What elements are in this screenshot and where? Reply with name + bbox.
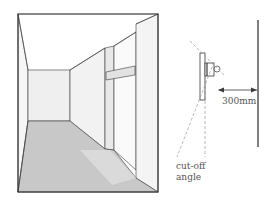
cutoff-line-outer xyxy=(177,62,214,157)
door-opening xyxy=(114,32,136,170)
diagram-canvas: 300mm cut-off angle xyxy=(0,0,270,204)
wall-plate xyxy=(200,53,205,100)
section-diagram: 300mm cut-off angle xyxy=(176,20,258,182)
dimension-label: 300mm xyxy=(222,96,257,106)
cutoff-label-line2: angle xyxy=(176,172,201,182)
door-recess xyxy=(105,46,114,150)
cutoff-label-line1: cut-off xyxy=(176,161,206,171)
lamp-icon xyxy=(214,66,220,72)
right-wall-front xyxy=(136,14,158,192)
corridor-perspective xyxy=(18,14,158,192)
arrowhead-right-icon xyxy=(251,88,257,93)
arrowhead-left-icon xyxy=(218,88,224,93)
back-wall xyxy=(28,70,70,121)
